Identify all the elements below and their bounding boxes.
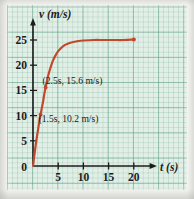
x-axis-label: t (s) <box>160 161 178 174</box>
y-tick-label-15: 15 <box>16 84 28 96</box>
y-tick-label-25: 25 <box>16 34 28 46</box>
x-axis-arrowhead <box>150 163 157 169</box>
curve-endpoint-marker <box>132 37 136 41</box>
chart-plot-area: 5 10 15 20 25 0 5 10 15 20 v (m/s) t (s)… <box>0 0 194 199</box>
y-tick-label-5: 5 <box>21 135 27 147</box>
x-tick-label-10: 10 <box>78 171 90 183</box>
velocity-time-graph-figure: 5 10 15 20 25 0 5 10 15 20 v (m/s) t (s)… <box>0 0 194 199</box>
velocity-curve <box>33 40 134 167</box>
y-axis-label: v (m/s) <box>39 8 71 21</box>
annotation-label-2_5s: (2.5s, 15.6 m/s) <box>43 75 103 87</box>
annotation-label-1_5s: (1.5s, 10.2 m/s) <box>39 113 99 125</box>
y-tick-label-10: 10 <box>16 110 28 122</box>
y-axis-arrowhead <box>30 18 36 25</box>
origin-label: 0 <box>21 161 27 173</box>
data-point-marker-2_5s <box>44 85 48 89</box>
x-tick-label-15: 15 <box>103 171 115 183</box>
x-axis <box>33 163 157 169</box>
x-tick-label-5: 5 <box>55 171 61 183</box>
y-tick-label-20: 20 <box>16 59 28 71</box>
x-tick-label-20: 20 <box>128 171 140 183</box>
